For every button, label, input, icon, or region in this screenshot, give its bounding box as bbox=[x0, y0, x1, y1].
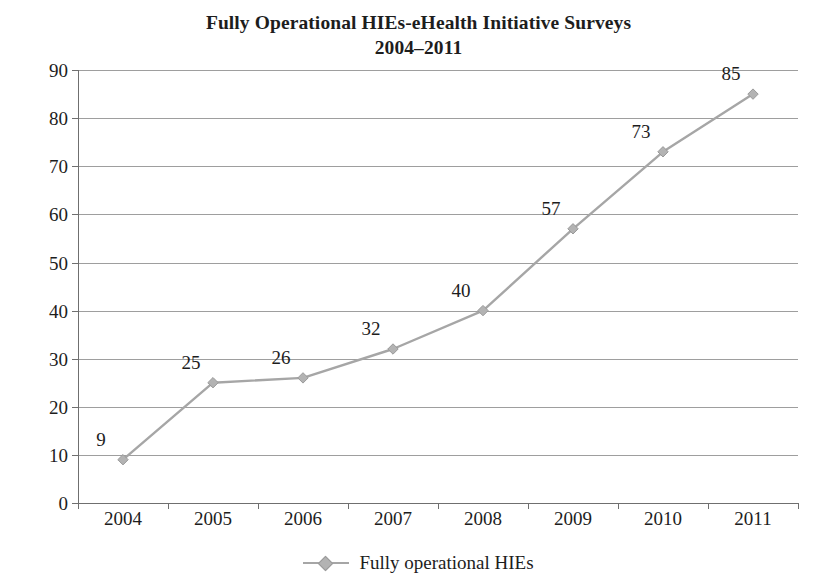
y-axis-tick-label-10: 10 bbox=[8, 446, 68, 465]
gridline-50 bbox=[78, 263, 798, 264]
x-axis-tick-8 bbox=[798, 503, 799, 509]
x-axis-label-2007: 2007 bbox=[348, 508, 438, 530]
data-label-2011: 85 bbox=[701, 64, 761, 83]
chart-container: Fully Operational HIEs-eHealth Initiativ… bbox=[0, 0, 837, 587]
data-label-2004: 9 bbox=[71, 430, 131, 449]
y-axis-tick-label-80: 80 bbox=[8, 109, 68, 128]
y-axis-tick-label-60: 60 bbox=[8, 205, 68, 224]
y-axis-tick-label-90: 90 bbox=[8, 61, 68, 80]
x-axis-label-2008: 2008 bbox=[438, 508, 528, 530]
y-axis-tick-label-30: 30 bbox=[8, 350, 68, 369]
gridline-90 bbox=[78, 70, 798, 71]
gridline-60 bbox=[78, 214, 798, 215]
data-label-2009: 57 bbox=[521, 199, 581, 218]
data-label-2005: 25 bbox=[161, 353, 221, 372]
legend-marker-icon bbox=[303, 556, 349, 570]
data-label-2008: 40 bbox=[431, 281, 491, 300]
data-label-2007: 32 bbox=[341, 319, 401, 338]
y-axis-tick-label-40: 40 bbox=[8, 302, 68, 321]
data-label-2006: 26 bbox=[251, 348, 311, 367]
x-axis-label-2011: 2011 bbox=[708, 508, 798, 530]
y-axis-tick-label-0: 0 bbox=[8, 494, 68, 513]
x-axis-label-2004: 2004 bbox=[78, 508, 168, 530]
y-axis-tick-label-50: 50 bbox=[8, 254, 68, 273]
chart-legend: Fully operational HIEs bbox=[0, 549, 837, 575]
y-axis-tick-label-20: 20 bbox=[8, 398, 68, 417]
gridline-40 bbox=[78, 311, 798, 312]
gridline-10 bbox=[78, 455, 798, 456]
legend-item-fully-operational-hies[interactable]: Fully operational HIEs bbox=[303, 549, 533, 575]
x-axis-label-2010: 2010 bbox=[618, 508, 708, 530]
data-label-2010: 73 bbox=[611, 122, 671, 141]
x-axis-label-2006: 2006 bbox=[258, 508, 348, 530]
gridline-80 bbox=[78, 118, 798, 119]
x-axis-label-2009: 2009 bbox=[528, 508, 618, 530]
chart-title-line2: 2004–2011 bbox=[0, 35, 837, 60]
chart-title: Fully Operational HIEs-eHealth Initiativ… bbox=[0, 10, 837, 60]
chart-title-line1: Fully Operational HIEs-eHealth Initiativ… bbox=[206, 12, 631, 33]
gridline-20 bbox=[78, 407, 798, 408]
y-axis-tick-label-70: 70 bbox=[8, 157, 68, 176]
gridline-70 bbox=[78, 166, 798, 167]
y-axis-labels: 90 80 70 60 50 40 30 20 10 0 bbox=[0, 0, 68, 587]
x-axis-label-2005: 2005 bbox=[168, 508, 258, 530]
legend-label: Fully operational HIEs bbox=[359, 551, 533, 575]
